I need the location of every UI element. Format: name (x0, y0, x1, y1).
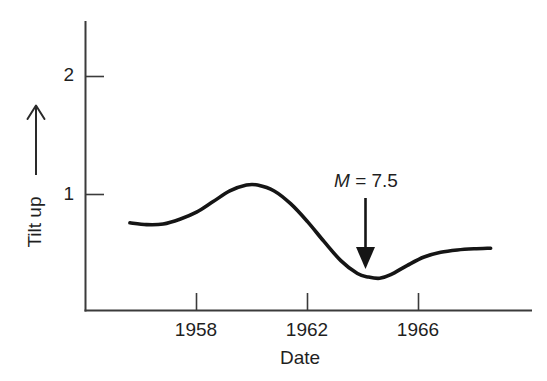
annotation-magnitude-value: = 7.5 (350, 170, 398, 191)
y-tick-label-1: 1 (63, 183, 74, 204)
annotation-label: M = 7.5 (334, 170, 398, 191)
x-tick-label-1958: 1958 (175, 319, 217, 340)
chart-canvas: 2 1 1958 1962 1966 Date Tilt up M = 7.5 (0, 0, 547, 381)
x-tick-label-1966: 1966 (397, 319, 439, 340)
chart-figure: 2 1 1958 1962 1966 Date Tilt up M = 7.5 (0, 0, 547, 381)
annotation-magnitude-symbol: M (334, 170, 350, 191)
y-axis-title: Tilt up (24, 196, 45, 247)
y-tick-label-2: 2 (63, 64, 74, 85)
x-axis-title: Date (280, 347, 320, 368)
x-tick-label-1962: 1962 (286, 319, 328, 340)
